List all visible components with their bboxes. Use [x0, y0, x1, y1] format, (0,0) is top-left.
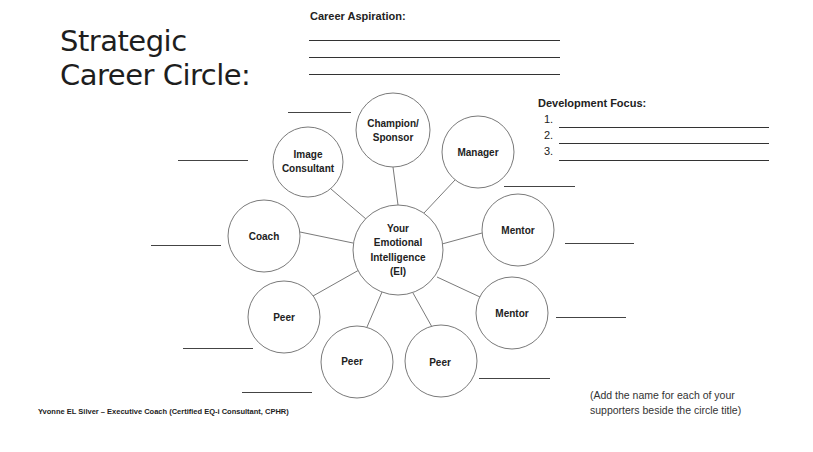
node-label: Mentor — [501, 225, 534, 236]
node-label: Sponsor — [373, 132, 414, 143]
node-label: Image — [294, 149, 323, 160]
node-champion-sponsor: Champion/ Sponsor — [356, 93, 430, 167]
node-label: Manager — [457, 147, 498, 158]
node-label: Peer — [273, 312, 295, 323]
node-label: Consultant — [282, 163, 335, 174]
node-peer-bottom-left: Peer — [321, 326, 393, 398]
node-peer-left: Peer — [248, 281, 320, 353]
instruction-note: (Add the name for each of your supporter… — [590, 388, 741, 418]
center-label-4: (EI) — [390, 266, 406, 277]
node-label: Coach — [249, 231, 280, 242]
center-node: Your Emotional Intelligence (EI) — [353, 205, 443, 295]
author-credit: Yvonne EL Silver – Executive Coach (Cert… — [38, 407, 289, 416]
node-manager: Manager — [442, 116, 514, 188]
node-label: Peer — [341, 356, 363, 367]
center-label-3: Intelligence — [370, 252, 425, 263]
note-line-1: (Add the name for each of your — [590, 388, 741, 403]
note-line-2: supporters beside the circle title) — [590, 403, 741, 418]
node-label: Peer — [429, 357, 451, 368]
node-label: Champion/ — [367, 118, 419, 129]
center-label-2: Emotional — [374, 237, 423, 248]
node-coach: Coach — [228, 200, 300, 272]
node-image-consultant: Image Consultant — [273, 127, 343, 197]
node-peer-bottom-right: Peer — [405, 325, 477, 397]
node-label: Mentor — [495, 308, 528, 319]
node-mentor-2: Mentor — [476, 277, 548, 349]
node-mentor-1: Mentor — [482, 194, 554, 266]
career-circle-diagram: Your Emotional Intelligence (EI) Champio… — [0, 0, 813, 452]
center-label-1: Your — [387, 223, 409, 234]
